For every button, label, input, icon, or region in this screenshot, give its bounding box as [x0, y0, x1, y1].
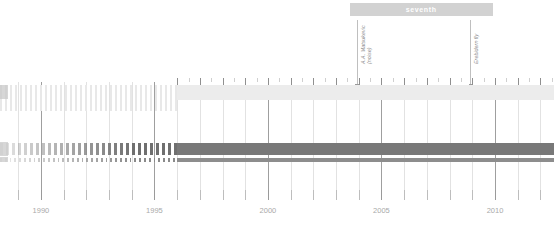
bar-segment — [86, 158, 88, 162]
bar-segment — [130, 158, 132, 162]
bar-segment — [173, 158, 175, 162]
bar-segment — [45, 85, 47, 111]
bar-segment — [132, 143, 135, 155]
bar-secondary-record-thin — [177, 158, 554, 162]
top-tick — [336, 78, 337, 85]
x-axis-label-2010: 2010 — [487, 206, 504, 215]
bar-segment — [144, 143, 147, 155]
annotation-left-line2: (noise) — [366, 25, 372, 64]
left-edge-marker-0 — [0, 85, 8, 99]
top-tick — [257, 78, 258, 82]
top-tick — [313, 78, 314, 85]
plot-area — [0, 82, 554, 200]
bar-segment — [43, 158, 45, 162]
bar-segment — [78, 143, 81, 155]
bar-segment — [110, 85, 112, 111]
x-axis: 19901995200020052010 — [0, 200, 554, 225]
top-tick — [438, 78, 439, 82]
top-tick — [223, 78, 224, 85]
top-tick — [381, 78, 382, 85]
bar-segment — [72, 158, 74, 162]
bar-segment — [110, 158, 112, 162]
bar-segment — [120, 85, 122, 111]
bar-segment — [54, 143, 57, 155]
bar-segment — [29, 158, 31, 162]
bar-segment — [40, 85, 42, 111]
bar-segment — [165, 85, 167, 111]
top-tick — [518, 78, 519, 85]
bar-segment — [96, 143, 99, 155]
bar-segment — [125, 85, 127, 111]
top-tick — [279, 78, 280, 82]
top-tick — [540, 78, 541, 85]
bar-segment — [155, 85, 157, 111]
bar-segment — [67, 158, 69, 162]
x-tick-minor — [336, 190, 337, 200]
top-tick — [472, 78, 473, 85]
bar-segment — [24, 158, 26, 162]
bar-segment — [108, 143, 111, 155]
top-tick — [291, 78, 292, 85]
bar-primary-record-thick-intermittent — [0, 143, 177, 155]
x-tick-minor — [404, 190, 405, 200]
bar-segment — [96, 158, 98, 162]
top-tick — [427, 78, 428, 85]
bar-segment — [134, 158, 136, 162]
x-axis-label-1995: 1995 — [146, 206, 163, 215]
annotation-leader-line — [357, 20, 358, 86]
bar-segment — [36, 143, 39, 155]
x-tick-minor — [177, 190, 178, 200]
bar-segment — [48, 158, 50, 162]
bar-segment — [168, 143, 171, 155]
x-tick-minor — [18, 190, 19, 200]
left-edge-marker-2 — [0, 157, 8, 162]
bar-segment — [145, 85, 147, 111]
top-tick — [189, 78, 190, 82]
bar-segment — [30, 85, 32, 111]
top-tick — [325, 78, 326, 82]
top-tick — [268, 78, 269, 85]
timeline-chart: seventh A.A. Matsukevic (noise) Erebider… — [0, 0, 554, 225]
bar-segment — [82, 158, 84, 162]
top-tick — [506, 78, 507, 82]
top-tick — [529, 78, 530, 82]
bar-segment — [25, 85, 27, 111]
x-tick-minor — [427, 190, 428, 200]
x-tick-major — [41, 190, 42, 200]
x-tick-minor — [109, 190, 110, 200]
bar-segment — [102, 143, 105, 155]
bar-segment — [150, 143, 153, 155]
bar-segment — [90, 143, 93, 155]
top-tick — [200, 78, 201, 85]
top-tick — [416, 78, 417, 82]
top-tick — [450, 78, 451, 85]
bar-segment — [75, 85, 77, 111]
x-axis-label-2000: 2000 — [260, 206, 277, 215]
bar-segment — [24, 143, 27, 155]
bar-primary-record-thick — [177, 143, 554, 155]
bar-segment — [105, 85, 107, 111]
bar-segment — [30, 143, 33, 155]
bar-segment — [90, 85, 92, 111]
bar-segment — [10, 85, 12, 111]
top-tick — [302, 78, 303, 82]
x-tick-minor — [86, 190, 87, 200]
bar-segment — [48, 143, 51, 155]
x-tick-minor — [540, 190, 541, 200]
bar-segment — [140, 85, 142, 111]
bar-segment — [38, 158, 40, 162]
bar-segment — [138, 143, 141, 155]
x-tick-minor — [291, 190, 292, 200]
period-bar-seventh: seventh — [350, 3, 493, 16]
bar-segment — [100, 85, 102, 111]
bar-segment — [77, 158, 79, 162]
bar-segment — [85, 85, 87, 111]
bar-light-coverage-band — [177, 85, 554, 100]
bar-segment — [55, 85, 57, 111]
bar-segment — [34, 158, 36, 162]
x-axis-label-2005: 2005 — [373, 206, 390, 215]
top-tick — [393, 78, 394, 82]
top-tick — [484, 78, 485, 82]
bar-segment — [50, 85, 52, 111]
bar-segment — [42, 143, 45, 155]
